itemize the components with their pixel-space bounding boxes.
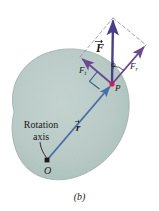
point-o-marker [45, 158, 50, 163]
torque-diagram-figure: F Ft Fr ϕ P r O Rotation axis (b) [0, 0, 159, 211]
figure-caption: (b) [0, 192, 159, 202]
point-o-label: O [44, 166, 51, 176]
rotation-axis-label: Rotation axis [13, 119, 69, 142]
radial-component-arrow [112, 48, 144, 85]
figure-canvas [0, 0, 159, 211]
tangential-subscript: t [85, 70, 87, 76]
tangential-component-label: Ft [79, 66, 86, 75]
rotation-axis-line-1: Rotation [13, 119, 69, 131]
tangential-letter: F [79, 65, 85, 75]
rotation-axis-line-2: axis [13, 131, 69, 143]
force-vector-label: F [96, 42, 104, 54]
force-vector-letter: F [96, 41, 104, 55]
position-vector-letter: r [76, 121, 80, 133]
force-vector-arrow [112, 22, 113, 85]
radial-letter: F [130, 61, 136, 71]
radial-component-label: Fr [130, 62, 138, 71]
angle-phi-label: ϕ [111, 60, 116, 69]
position-vector-label: r [76, 122, 80, 133]
radial-subscript: r [136, 66, 138, 72]
point-p-label: P [115, 84, 121, 93]
point-p-marker [109, 81, 114, 86]
